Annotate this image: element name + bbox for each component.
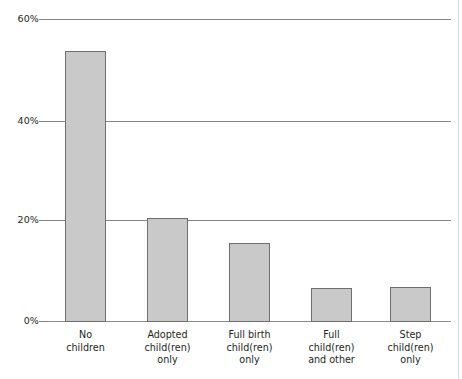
- y-axis-label-20: 20%: [0, 215, 39, 225]
- bar-adopted-children-only: [147, 218, 188, 322]
- bar-full-children-and-other: [311, 288, 352, 322]
- x-axis-label-no-children: No children: [45, 329, 126, 354]
- gridline-20: [48, 220, 451, 221]
- y-tick-mark-40: [39, 121, 48, 122]
- x-axis-label-full-children-and-other: Full child(ren) and other: [291, 329, 372, 367]
- bar-no-children: [65, 51, 106, 322]
- x-axis-label-full-birth-children-only: Full birth child(ren) only: [209, 329, 290, 367]
- y-tick-mark-0: [39, 321, 48, 322]
- bar-full-birth-children-only: [229, 243, 270, 322]
- bar-chart: 60% 40% 20% 0% No children Adopted child…: [0, 0, 462, 379]
- y-axis-label-40: 40%: [0, 116, 39, 126]
- bar-step-children-only: [390, 287, 431, 322]
- y-tick-mark-20: [39, 220, 48, 221]
- x-axis-label-adopted-children-only: Adopted child(ren) only: [127, 329, 208, 367]
- x-axis-label-step-children-only: Step child(ren) only: [370, 329, 451, 367]
- chart-right-border: [458, 0, 459, 379]
- gridline-40: [48, 121, 451, 122]
- gridline-60: [48, 19, 451, 20]
- plot-area: 60% 40% 20% 0% No children Adopted child…: [0, 0, 462, 379]
- y-axis-label-0: 0%: [0, 316, 39, 326]
- y-tick-mark-60: [39, 19, 48, 20]
- y-axis-label-60: 60%: [0, 14, 39, 24]
